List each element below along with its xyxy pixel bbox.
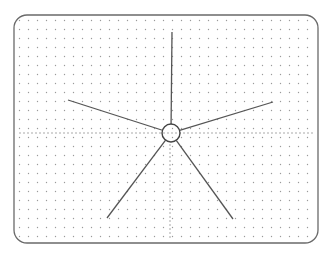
arm-upper-left	[68, 100, 162, 130]
dotted-axes	[19, 132, 312, 237]
arm-lower-left	[107, 140, 166, 218]
star-arms	[68, 32, 273, 219]
arm-lower-right	[176, 140, 233, 219]
diagram-canvas	[0, 0, 336, 256]
rounded-frame	[14, 15, 318, 243]
arm-upper-right	[180, 102, 273, 130]
arm-up	[171, 32, 172, 124]
